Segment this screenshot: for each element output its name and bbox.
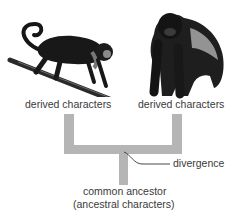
divergence-label: divergence: [173, 157, 224, 169]
divergence-pointer: [120, 150, 180, 170]
right-taxon-label: derived characters: [138, 98, 224, 110]
left-taxon-label: derived characters: [25, 98, 111, 110]
gorilla-icon: [140, 4, 230, 102]
monkey-icon: [0, 2, 120, 97]
ancestor-label-line2: (ancestral characters): [73, 198, 175, 210]
ancestor-label-line1: common ancestor: [83, 185, 166, 197]
